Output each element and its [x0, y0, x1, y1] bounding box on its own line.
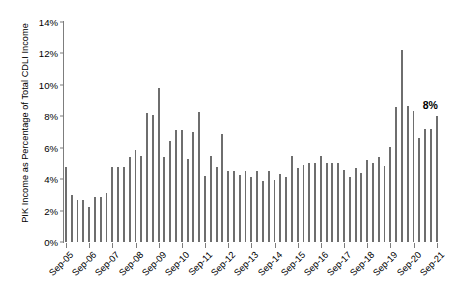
bar [430, 129, 432, 242]
x-axis-tick-mark [182, 243, 183, 248]
bar [169, 141, 171, 242]
x-axis-tick-mark [414, 243, 415, 248]
x-axis-tick-mark [344, 243, 345, 248]
bar [418, 138, 420, 242]
bar [337, 163, 339, 242]
x-axis-tick-mark [112, 243, 113, 248]
x-axis-tick-mark [205, 243, 206, 248]
x-axis-tick-mark [437, 243, 438, 248]
bar [355, 168, 357, 242]
bar [239, 175, 241, 242]
bar [395, 107, 397, 242]
x-axis-tick-mark [159, 243, 160, 248]
bar [71, 195, 73, 242]
pik-income-bar-chart: PIK Income as Percentage of Total CDLI I… [0, 0, 454, 308]
bar [291, 156, 293, 242]
bar [77, 200, 79, 242]
x-axis-tick-mark [298, 243, 299, 248]
bar [245, 171, 247, 242]
bar [129, 157, 131, 242]
x-axis-tick-mark [89, 243, 90, 248]
bar [123, 167, 125, 242]
bar [216, 167, 218, 242]
bar [146, 113, 148, 242]
bar [360, 173, 362, 242]
x-axis-tick-mark [66, 243, 67, 248]
bar [100, 197, 102, 242]
bar [221, 134, 223, 242]
bar [436, 116, 438, 242]
bar [413, 111, 415, 242]
y-axis-tick-label: 0% [0, 237, 64, 248]
bar [192, 132, 194, 242]
x-axis-tick-mark [367, 243, 368, 248]
x-axis-tick-mark [228, 243, 229, 248]
bar [158, 88, 160, 242]
bar-series [64, 22, 444, 242]
y-axis-tick-label: 12% [0, 48, 64, 59]
plot-area: 0%2%4%6%8%10%12%14% [64, 22, 444, 242]
y-axis-tick-label: 8% [0, 111, 64, 122]
x-axis-tick-mark [321, 243, 322, 248]
bar [285, 177, 287, 242]
bar [384, 166, 386, 242]
bar [210, 156, 212, 242]
y-axis-tick-label: 6% [0, 142, 64, 153]
bar [308, 163, 310, 242]
final-value-annotation: 8% [423, 99, 438, 111]
y-axis-tick-label: 2% [0, 205, 64, 216]
y-axis-tick-label: 10% [0, 79, 64, 90]
bar [65, 167, 67, 242]
y-axis-tick-label: 14% [0, 17, 64, 28]
y-axis-tick-label: 4% [0, 174, 64, 185]
bar [198, 112, 200, 242]
bar [407, 106, 409, 242]
bar [175, 130, 177, 242]
bar [262, 181, 264, 242]
bar [152, 115, 154, 242]
bar [424, 129, 426, 242]
bar [401, 50, 403, 242]
bar [268, 171, 270, 243]
x-axis-tick-mark [251, 243, 252, 248]
bar [181, 130, 183, 242]
bar [314, 163, 316, 242]
x-axis-tick-mark [136, 243, 137, 248]
x-axis-tick-mark [390, 243, 391, 248]
bar [140, 156, 142, 242]
bar [378, 157, 380, 242]
x-axis-tick-mark [275, 243, 276, 248]
x-axis: Sep-05Sep-06Sep-07Sep-08Sep-09Sep-10Sep-… [64, 243, 444, 251]
bar [331, 163, 333, 242]
